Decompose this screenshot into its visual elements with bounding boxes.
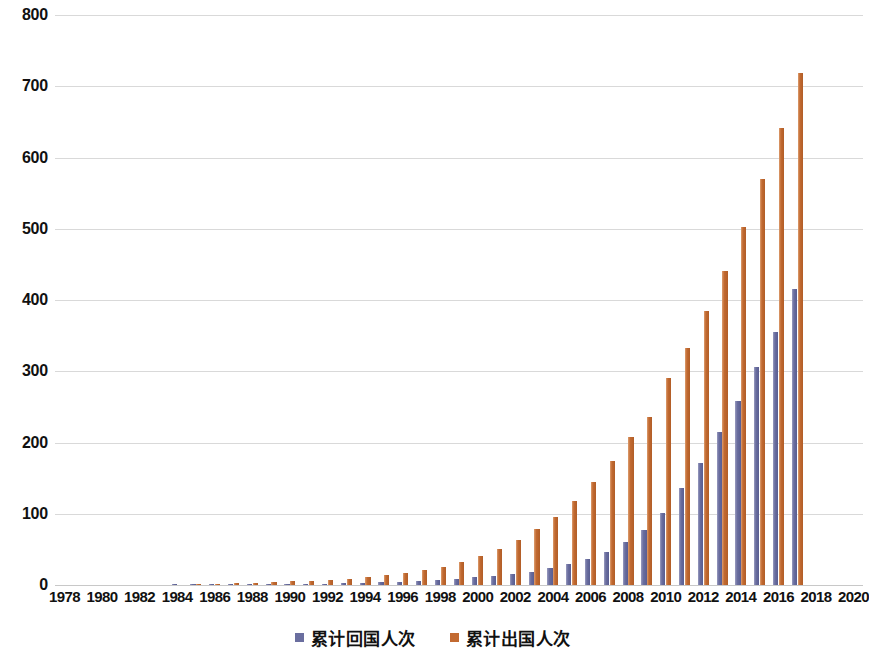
bar-group: [829, 15, 840, 585]
y-axis-tick-label: 0: [39, 576, 48, 594]
bar-group: [78, 15, 89, 585]
bar-group: [378, 15, 389, 585]
x-axis-tick-label: 2016: [763, 588, 794, 605]
bar: [792, 289, 797, 585]
bar: [266, 584, 271, 585]
bar: [604, 552, 609, 585]
bar-group: [491, 15, 502, 585]
bar-group: [303, 15, 314, 585]
bar: [271, 582, 276, 585]
bar-group: [416, 15, 427, 585]
bar: [529, 572, 534, 585]
x-axis-tick-label: 2000: [462, 588, 493, 605]
bar-group: [472, 15, 483, 585]
x-axis-tick-label: 2008: [613, 588, 644, 605]
bar: [234, 583, 239, 585]
legend-swatch-icon: [295, 633, 304, 642]
x-axis-tick-label: 2010: [650, 588, 681, 605]
bar: [360, 583, 365, 585]
bar: [547, 568, 552, 585]
bar: [416, 581, 421, 585]
legend-item[interactable]: 累计出国人次: [450, 625, 571, 650]
bar: [741, 227, 746, 585]
bar-group: [172, 15, 183, 585]
bar: [190, 584, 195, 585]
bar-group: [435, 15, 446, 585]
y-axis-tick-label: 500: [22, 220, 48, 238]
bar: [209, 584, 214, 585]
x-axis-tick-label: 2018: [801, 588, 832, 605]
legend-label: 累计回国人次: [311, 625, 416, 650]
bar-group: [115, 15, 126, 585]
bar-group: [811, 15, 822, 585]
bar: [610, 461, 615, 585]
chart-legend: 累计回国人次累计出国人次: [0, 625, 865, 650]
bar: [378, 582, 383, 585]
bar: [623, 542, 628, 585]
bar: [290, 581, 295, 585]
bar: [660, 513, 665, 585]
bar-group: [59, 15, 70, 585]
bar: [303, 584, 308, 585]
bar: [309, 581, 314, 585]
bar-group: [566, 15, 577, 585]
y-axis-tick-label: 400: [22, 291, 48, 309]
bar-group: [735, 15, 746, 585]
bar-group: [397, 15, 408, 585]
bar: [754, 367, 759, 585]
bar: [441, 567, 446, 585]
bar: [760, 179, 765, 585]
x-axis-tick-label: 1988: [237, 588, 268, 605]
y-axis-tick-label: 600: [22, 149, 48, 167]
bar: [228, 584, 233, 585]
x-axis-tick-label: 2014: [725, 588, 756, 605]
bar: [628, 437, 633, 585]
bar: [347, 579, 352, 585]
bar: [779, 128, 784, 585]
bar-group: [454, 15, 465, 585]
bar: [516, 540, 521, 585]
bar: [698, 463, 703, 585]
bar: [284, 584, 289, 585]
bar: [403, 573, 408, 585]
bar: [685, 348, 690, 585]
bar-group: [247, 15, 258, 585]
bar-group: [792, 15, 803, 585]
bar: [491, 576, 496, 585]
bar: [704, 311, 709, 585]
bar: [454, 579, 459, 585]
x-axis-tick-label: 2002: [500, 588, 531, 605]
bar-group: [134, 15, 145, 585]
bar-group: [623, 15, 634, 585]
bar: [591, 482, 596, 585]
bar-group: [228, 15, 239, 585]
bar: [247, 584, 252, 585]
bar: [459, 562, 464, 585]
bar: [510, 574, 515, 585]
legend-item[interactable]: 累计回国人次: [295, 625, 416, 650]
y-axis-tick-label: 700: [22, 77, 48, 95]
bar: [472, 577, 477, 585]
x-axis-tick-label: 2004: [537, 588, 568, 605]
bar: [478, 556, 483, 585]
bar-group: [547, 15, 558, 585]
y-axis-tick-label: 300: [22, 362, 48, 380]
x-axis-tick-label: 1984: [162, 588, 193, 605]
bar: [215, 584, 220, 585]
y-axis-tick-label: 100: [22, 505, 48, 523]
bar-group: [360, 15, 371, 585]
legend-swatch-icon: [450, 633, 459, 642]
x-axis-tick-label: 1992: [312, 588, 343, 605]
bar-group: [209, 15, 220, 585]
bar-group: [322, 15, 333, 585]
bar: [666, 378, 671, 585]
bar: [172, 584, 177, 585]
bar-group: [190, 15, 201, 585]
bar-group: [660, 15, 671, 585]
bar: [196, 584, 201, 585]
bar: [735, 401, 740, 585]
x-axis-tick-label: 2012: [688, 588, 719, 605]
x-axis-tick-label: 1998: [425, 588, 456, 605]
x-axis-tick-label: 1994: [350, 588, 381, 605]
